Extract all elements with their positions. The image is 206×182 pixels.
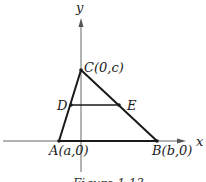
figure-caption: Figure 1.13 [72,177,144,182]
point-D [69,103,73,107]
triangle-midsegment-diagram: x y C(0,c) D E A(a,0) B(b,0) Figure 1.13 [0,0,206,182]
x-axis-label: x [196,134,204,149]
label-C: C(0,c) [84,60,124,75]
label-B: B(b,0) [151,143,192,158]
triangle [59,70,157,141]
point-E [117,103,121,107]
y-axis-arrow-icon [79,18,84,27]
label-D: D [56,98,68,113]
label-A: A(a,0) [48,143,89,158]
point-C [79,68,83,72]
label-E: E [126,98,137,113]
y-axis-label: y [75,0,84,15]
